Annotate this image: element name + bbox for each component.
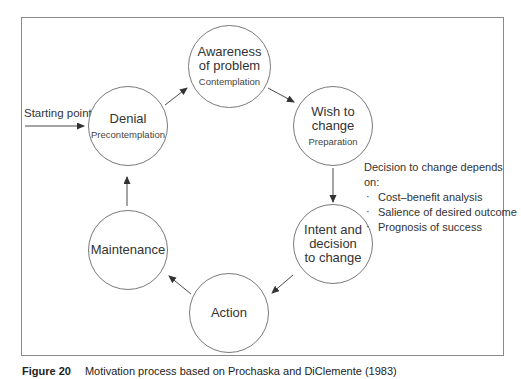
node-denial: Denial Precontemplation <box>88 86 168 166</box>
node-title: Wish to change <box>308 105 358 133</box>
factor-item: Cost–benefit analysis <box>364 190 521 205</box>
node-subtitle: Precontemplation <box>91 129 165 141</box>
decision-factors: Decision to change depends on: Cost–bene… <box>364 160 521 235</box>
factors-list: Cost–benefit analysis Salience of desire… <box>364 190 521 235</box>
node-subtitle: Contemplation <box>199 76 260 88</box>
node-title: Awareness of problem <box>195 45 265 73</box>
figure-caption: Figure 20Motivation process based on Pro… <box>22 365 397 377</box>
node-maintenance: Maintenance <box>88 210 168 290</box>
factor-item: Salience of desired outcome <box>364 205 521 220</box>
arrow-awareness-to-wish <box>268 88 294 102</box>
arrow-denial-to-awareness <box>165 88 187 105</box>
node-action: Action <box>189 273 269 353</box>
factor-item: Prognosis of success <box>364 220 521 235</box>
starting-point-label: Starting point: <box>24 107 95 119</box>
node-subtitle: Preparation <box>308 136 357 148</box>
arrow-intent-to-action <box>272 275 293 293</box>
node-awareness: Awareness of problem Contemplation <box>188 25 271 108</box>
node-wish: Wish to change Preparation <box>293 86 373 166</box>
node-title: Intent and decision to change <box>304 223 362 265</box>
factors-heading: Decision to change depends on: <box>364 160 521 190</box>
node-title: Action <box>211 306 247 320</box>
node-title: Denial <box>110 112 147 126</box>
node-intent: Intent and decision to change <box>293 204 373 284</box>
arrow-action-to-maintenance <box>169 276 191 294</box>
caption-text: Motivation process based on Prochaska an… <box>85 365 397 377</box>
node-title: Maintenance <box>91 243 165 257</box>
figure-number: Figure 20 <box>22 365 71 377</box>
